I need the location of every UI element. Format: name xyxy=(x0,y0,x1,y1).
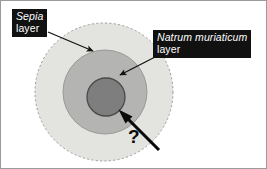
label-sepia-line1: Sepia xyxy=(16,11,43,23)
label-sepia-line2: layer xyxy=(16,23,43,35)
label-natrum-line2: layer xyxy=(157,44,247,56)
label-natrum-muriaticum-layer: Natrum muriaticum layer xyxy=(153,30,251,58)
label-sepia-layer: Sepia layer xyxy=(12,9,47,37)
diagram-figure: Sepia layer Natrum muriaticum layer ? xyxy=(0,0,267,169)
unknown-layer-question-mark: ? xyxy=(128,127,140,146)
label-natrum-line1: Natrum muriaticum xyxy=(157,32,247,44)
